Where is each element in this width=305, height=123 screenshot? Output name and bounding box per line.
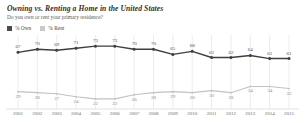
legend-swatch-rent-icon [40, 26, 45, 31]
legend-label-rent: % Rent [48, 25, 64, 31]
chart-subtitle: Do you own or rent your primary residenc… [7, 14, 299, 21]
line-chart-svg [6, 33, 299, 117]
legend-item-rent[interactable]: % Rent [40, 25, 64, 31]
chart-legend: % Own % Rent [7, 24, 299, 32]
page-title: Owning vs. Renting a Home in the United … [7, 4, 299, 13]
legend-swatch-own-icon [7, 26, 12, 31]
legend-label-own: % Own [15, 25, 31, 31]
legend-item-own[interactable]: % Own [7, 25, 31, 31]
chart-plot-area: 6770697173737070656862626461612928272422… [6, 33, 299, 117]
chart-page: Owning vs. Renting a Home in the United … [0, 0, 305, 123]
